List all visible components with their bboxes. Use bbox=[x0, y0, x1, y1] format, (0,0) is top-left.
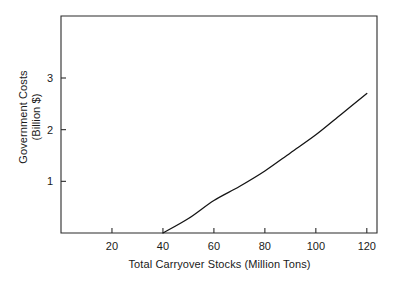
x-axis-ticks: 20406080100120 bbox=[106, 228, 376, 252]
x-tick-label: 60 bbox=[208, 240, 220, 252]
y-axis-label: Government Costs (Billion $) bbox=[2, 0, 58, 233]
x-tick-label: 120 bbox=[358, 240, 376, 252]
y-axis-label-line1: Government Costs bbox=[17, 70, 30, 163]
x-tick-label: 20 bbox=[106, 240, 118, 252]
chart-figure: Government Costs (Billion $) 123 2040608… bbox=[0, 0, 397, 290]
data-series-line bbox=[163, 94, 367, 234]
plot-area: 123 20406080100120 bbox=[0, 0, 397, 290]
x-tick-label: 40 bbox=[157, 240, 169, 252]
x-tick-label: 100 bbox=[307, 240, 325, 252]
x-tick-label: 80 bbox=[259, 240, 271, 252]
y-axis-label-line2: (Billion $) bbox=[30, 70, 43, 163]
x-axis-label: Total Carryover Stocks (Million Tons) bbox=[61, 258, 378, 270]
